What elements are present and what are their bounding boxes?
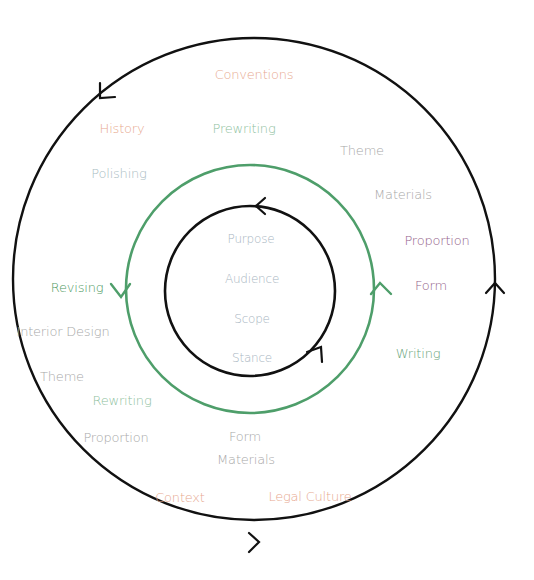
label-proportion-right: Proportion bbox=[404, 234, 469, 247]
label-materials-top: Materials bbox=[374, 188, 432, 201]
label-rewriting: Rewriting bbox=[93, 394, 152, 407]
label-materials-bottom: Materials bbox=[217, 453, 275, 466]
label-form-bottom: Form bbox=[229, 430, 261, 443]
label-theme-left: Theme bbox=[40, 370, 84, 383]
label-conventions: Conventions bbox=[215, 68, 294, 81]
label-stance: Stance bbox=[232, 352, 272, 364]
label-form-right: Form bbox=[415, 279, 447, 292]
label-proportion-left: Proportion bbox=[83, 431, 148, 444]
inner-bottom-right-arrow-icon bbox=[307, 347, 322, 362]
label-revising: Revising bbox=[51, 281, 104, 294]
label-interior-design: Interior Design bbox=[17, 325, 110, 338]
label-legal-culture: Legal Culture bbox=[268, 490, 351, 503]
label-theme-top: Theme bbox=[340, 144, 384, 157]
label-audience: Audience bbox=[225, 273, 279, 285]
label-prewriting: Prewriting bbox=[212, 122, 275, 135]
outer-bottom-arrow-icon bbox=[249, 533, 259, 552]
label-writing: Writing bbox=[396, 347, 441, 360]
label-purpose: Purpose bbox=[228, 233, 275, 245]
label-polishing: Polishing bbox=[91, 167, 146, 180]
label-context: Context bbox=[155, 491, 205, 504]
label-history: History bbox=[100, 122, 145, 135]
label-scope: Scope bbox=[234, 313, 270, 325]
